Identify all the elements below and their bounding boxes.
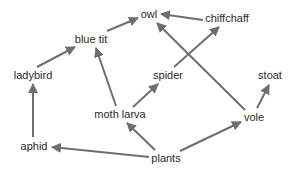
node-blue-tit: blue tit: [75, 34, 107, 45]
arrow-ladybird-to-blue-tit: [37, 47, 75, 67]
arrow-blue-tit-to-owl: [107, 18, 138, 31]
node-moth-larva: moth larva: [94, 109, 145, 120]
arrow-vole-to-stoat: [257, 85, 269, 108]
node-chiffchaff: chiffchaff: [205, 13, 249, 24]
node-plants: plants: [151, 153, 180, 164]
arrow-moth-larva-to-blue-tit: [96, 48, 116, 106]
node-spider: spider: [153, 70, 183, 81]
node-aphid: aphid: [21, 141, 48, 152]
arrow-vole-to-owl: [157, 23, 245, 110]
arrow-plants-to-aphid: [52, 147, 149, 157]
food-web-diagram: owl chiffchaff blue tit ladybird spider …: [0, 0, 294, 174]
arrow-moth-larva-to-spider: [133, 84, 158, 107]
arrow-chiffchaff-to-owl: [161, 14, 203, 20]
node-vole: vole: [244, 112, 264, 123]
arrow-plants-to-vole: [180, 122, 241, 151]
arrow-plants-to-moth-larva: [127, 123, 155, 150]
node-ladybird: ladybird: [14, 70, 53, 81]
node-stoat: stoat: [258, 70, 282, 81]
node-owl: owl: [141, 9, 158, 20]
